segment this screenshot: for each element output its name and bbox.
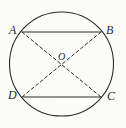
circumscribed-circle bbox=[10, 12, 114, 116]
figure-canvas bbox=[0, 0, 126, 128]
vertex-label-d: D bbox=[8, 89, 17, 101]
vertex-label-b: B bbox=[106, 24, 113, 36]
geometry-figure: A B C D O bbox=[0, 0, 126, 128]
center-point-label-o: O bbox=[58, 52, 65, 62]
vertex-label-a: A bbox=[9, 24, 16, 36]
vertex-label-c: C bbox=[107, 90, 115, 102]
